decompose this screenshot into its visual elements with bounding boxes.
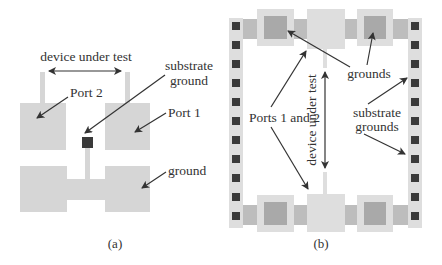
substrate-via bbox=[232, 174, 240, 182]
substrate-via bbox=[232, 155, 240, 163]
caption-b: (b) bbox=[313, 236, 328, 251]
substrate-grounds-label-b: grounds bbox=[355, 119, 399, 134]
bottom-signal-pad bbox=[307, 194, 345, 232]
ground-bridge bbox=[66, 179, 106, 200]
substrate-via bbox=[411, 41, 419, 49]
substrate-via bbox=[411, 98, 419, 106]
substrate-via bbox=[232, 193, 240, 201]
substrate-via bbox=[232, 136, 240, 144]
substrate-via bbox=[411, 79, 419, 87]
ground-pad-left bbox=[20, 166, 67, 212]
substrate-via bbox=[411, 212, 419, 220]
ground-label: ground bbox=[168, 163, 206, 178]
port2-pad bbox=[20, 103, 66, 150]
substrate-via bbox=[232, 98, 240, 106]
substrate-via bbox=[232, 41, 240, 49]
substrate-grounds-arrow-top bbox=[368, 78, 407, 104]
top-right-ground-pad-inner bbox=[364, 16, 386, 39]
grounds-label: grounds bbox=[347, 66, 391, 81]
bottom-left-ground-pad-inner bbox=[264, 202, 287, 225]
substrate-via bbox=[411, 174, 419, 182]
substrate-via bbox=[411, 136, 419, 144]
port2-feed-line bbox=[40, 72, 45, 104]
bottom-right-ground-pad-inner bbox=[364, 202, 386, 225]
substrate-ground-via bbox=[82, 137, 93, 148]
dut-label-a: device under test bbox=[40, 49, 132, 64]
substrate-ground-label-a: ground bbox=[170, 73, 208, 88]
substrate-via bbox=[232, 79, 240, 87]
bottom-feed-line bbox=[323, 172, 327, 194]
substrate-via bbox=[411, 155, 419, 163]
test-structure-figure: device under test substrate ground Port … bbox=[0, 0, 442, 265]
substrate-label-b: substrate bbox=[353, 105, 401, 120]
substrate-ground-line bbox=[85, 148, 90, 180]
substrate-via bbox=[232, 22, 240, 30]
substrate-label-a: substrate bbox=[165, 58, 213, 73]
caption-a: (a) bbox=[108, 236, 122, 251]
substrate-via bbox=[411, 117, 419, 125]
substrate-via bbox=[232, 60, 240, 68]
substrate-via bbox=[411, 60, 419, 68]
substrate-via bbox=[232, 212, 240, 220]
ports-label: Ports 1 and 2 bbox=[249, 110, 320, 125]
top-signal-pad bbox=[307, 9, 345, 49]
port1-feed-line bbox=[125, 72, 130, 104]
top-left-ground-pad-inner bbox=[264, 16, 287, 39]
panel-a: device under test substrate ground Port … bbox=[20, 49, 213, 251]
substrate-via bbox=[411, 193, 419, 201]
port2-label: Port 2 bbox=[70, 85, 103, 100]
substrate-via bbox=[232, 117, 240, 125]
ports-arrow-top bbox=[271, 51, 306, 107]
panel-b: device under test grounds Ports 1 and 2 … bbox=[229, 9, 422, 251]
ground-pad-right bbox=[105, 166, 150, 212]
port1-label: Port 1 bbox=[168, 105, 201, 120]
substrate-grounds-arrow-bottom bbox=[364, 134, 405, 154]
ports-arrow-bottom bbox=[271, 127, 308, 189]
substrate-via bbox=[411, 22, 419, 30]
